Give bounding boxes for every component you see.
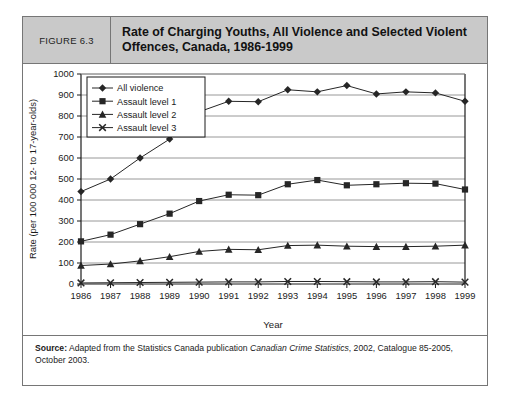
xtick-label-1999: 1999 [455,290,476,301]
ytick-label-600: 600 [58,152,74,163]
legend-label-assault-level-3: Assault level 3 [117,123,176,133]
data-point-1-1987 [107,232,113,238]
series-line-1 [81,180,465,241]
xtick-label-1992: 1992 [248,290,269,301]
ytick-label-500: 500 [58,173,74,184]
data-point-0-1988 [136,154,143,161]
figure-card: FIGURE 6.3 Rate of Charging Youths, All … [22,16,488,386]
x-axis-title: Year [263,319,283,330]
data-point-0-1996 [373,90,380,97]
data-point-1-1992 [255,192,261,198]
data-point-0-1991 [225,98,232,105]
data-point-1-1999 [462,186,468,192]
data-point-1-1989 [167,211,173,217]
source-note: Source: Adapted from the Statistics Cana… [23,335,487,385]
ytick-label-900: 900 [58,89,74,100]
legend-label-assault-level-1: Assault level 1 [117,97,176,107]
data-point-1-1998 [432,181,438,187]
figure-header: FIGURE 6.3 Rate of Charging Youths, All … [23,17,487,64]
xtick-label-1996: 1996 [366,290,387,301]
data-point-1-1986 [78,238,84,244]
data-point-1-1991 [226,192,232,198]
series-assault-level-1 [78,177,468,245]
legend-label-assault-level-2: Assault level 2 [117,110,176,120]
data-point-1-1994 [314,177,320,183]
data-point-0-1992 [255,98,262,105]
xtick-label-1986: 1986 [71,290,92,301]
xtick-label-1991: 1991 [218,290,239,301]
source-text-before: Adapted from the Statistics Canada publi… [67,343,250,353]
data-point-0-1998 [432,89,439,96]
series-assault-level-3 [78,278,469,286]
data-point-1-1995 [344,182,350,188]
xtick-label-1994: 1994 [307,290,328,301]
source-label: Source: [35,343,67,353]
ytick-label-800: 800 [58,110,74,121]
figure-number-label: FIGURE 6.3 [23,17,111,63]
xtick-label-1989: 1989 [159,290,180,301]
source-publication-title: Canadian Crime Statistics [250,343,349,353]
ytick-label-300: 300 [58,215,74,226]
xtick-label-1990: 1990 [189,290,210,301]
ytick-label-400: 400 [58,194,74,205]
xtick-label-1988: 1988 [130,290,151,301]
data-point-1-1988 [137,221,143,227]
data-point-1-1997 [403,180,409,186]
chart-plot-area: 0100200300400500600700800900100019861987… [23,64,487,336]
data-point-1-1990 [196,198,202,204]
data-point-1-1996 [373,181,379,187]
data-point-0-1986 [77,188,84,195]
chart-legend: All violenceAssault level 1Assault level… [87,77,205,137]
series-assault-level-2 [77,241,469,268]
data-point-0-1994 [314,88,321,95]
ytick-label-200: 200 [58,236,74,247]
ytick-label-1000: 1000 [53,68,74,79]
xtick-label-1995: 1995 [336,290,357,301]
legend-label-all-violence: All violence [117,83,163,93]
line-chart: 0100200300400500600700800900100019861987… [23,64,487,336]
ytick-label-0: 0 [69,278,74,289]
xtick-label-1987: 1987 [100,290,121,301]
ytick-label-100: 100 [58,257,74,268]
data-point-0-1999 [461,98,468,105]
xtick-label-1998: 1998 [425,290,446,301]
data-point-1-1993 [285,181,291,187]
xtick-label-1993: 1993 [277,290,298,301]
xtick-label-1997: 1997 [395,290,416,301]
data-point-0-1997 [402,88,409,95]
y-axis-title: Rate (per 100 000 12- to 17-year-olds) [27,99,38,259]
data-point-0-1995 [343,82,350,89]
ytick-label-700: 700 [58,131,74,142]
data-point-0-1987 [107,175,114,182]
data-point-0-1993 [284,86,291,93]
figure-title: Rate of Charging Youths, All Violence an… [111,17,487,63]
legend-marker-square-icon [99,98,105,104]
